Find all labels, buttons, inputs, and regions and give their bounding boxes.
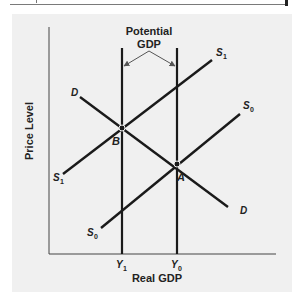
- label-s0-end: S 0: [243, 100, 254, 113]
- svg-text:1: 1: [223, 53, 227, 60]
- label-s1-end: S 1: [216, 47, 227, 60]
- svg-text:0: 0: [94, 233, 98, 240]
- svg-text:S: S: [216, 47, 223, 58]
- svg-text:0: 0: [250, 106, 254, 113]
- potential-label-line1: Potential: [126, 25, 172, 37]
- potential-arrow-left: [124, 51, 149, 66]
- x-tick-y1: Y 1: [116, 259, 127, 272]
- potential-label-line2: GDP: [137, 38, 161, 50]
- potential-arrow-right: [149, 51, 175, 66]
- label-s0-start: S 0: [87, 227, 98, 240]
- label-d-start: D: [71, 87, 78, 98]
- svg-text:S: S: [87, 227, 94, 238]
- x-tick-y0: Y 0: [171, 259, 182, 272]
- as-ad-chart: Potential GDP D D S 1 S 1 S 0 S 0 B A Y …: [0, 0, 296, 299]
- svg-text:S: S: [243, 100, 250, 111]
- demand-curve-d: [80, 97, 228, 207]
- svg-text:S: S: [53, 172, 60, 183]
- x-axis-label: Real GDP: [132, 272, 182, 284]
- label-s1-start: S 1: [53, 172, 64, 185]
- label-d-end: D: [240, 205, 247, 216]
- label-point-b: B: [112, 135, 120, 147]
- svg-text:1: 1: [123, 265, 127, 272]
- supply-curve-s1: [63, 60, 212, 174]
- svg-text:1: 1: [60, 178, 64, 185]
- label-point-a: A: [176, 171, 185, 183]
- svg-text:0: 0: [178, 265, 182, 272]
- y-axis-label: Price Level: [23, 102, 35, 160]
- point-b-dot: [119, 125, 125, 131]
- point-a-dot: [174, 161, 180, 167]
